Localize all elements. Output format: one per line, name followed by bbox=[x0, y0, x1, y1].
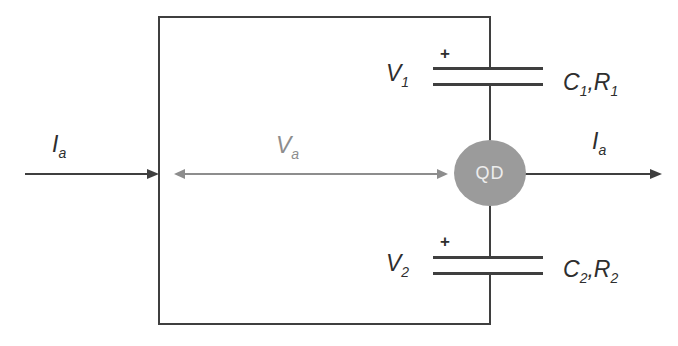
plus-sign-top: + bbox=[440, 45, 450, 62]
label-v1-base: V bbox=[386, 60, 401, 86]
wire-cap1-lower bbox=[489, 85, 491, 142]
label-v1: V1 bbox=[386, 62, 409, 85]
input-current-line bbox=[25, 173, 150, 175]
label-v2: V2 bbox=[386, 252, 409, 275]
label-c2r2: C2,R2 bbox=[563, 258, 618, 281]
label-v2-base: V bbox=[386, 250, 401, 276]
label-voltage-va: Va bbox=[276, 134, 299, 157]
wire-bottom-edge bbox=[158, 323, 491, 325]
output-arrowhead-icon bbox=[650, 169, 662, 179]
label-v2-sub: 2 bbox=[401, 264, 409, 280]
label-r1-base: R bbox=[594, 69, 611, 95]
input-arrowhead-icon bbox=[147, 169, 159, 179]
capacitor2-plate-top bbox=[433, 256, 543, 259]
label-voltage-va-sub: a bbox=[291, 146, 299, 162]
label-r2-base: R bbox=[594, 256, 611, 282]
capacitor2-plate-bottom bbox=[433, 272, 543, 275]
label-c1-base: C bbox=[563, 69, 580, 95]
label-r1-sub: 1 bbox=[610, 83, 618, 99]
wire-cap2-upper bbox=[489, 203, 491, 258]
label-current-in: Ia bbox=[52, 133, 66, 156]
label-c1r1: C1,R1 bbox=[563, 71, 618, 94]
quantum-dot-label: QD bbox=[476, 163, 505, 184]
label-r2-sub: 2 bbox=[610, 270, 618, 286]
capacitor1-plate-bottom bbox=[433, 83, 543, 86]
wire-top-edge bbox=[158, 16, 491, 18]
label-voltage-va-base: V bbox=[276, 132, 291, 158]
wire-cap2-lower bbox=[489, 273, 491, 325]
label-current-in-sub: a bbox=[58, 145, 66, 161]
va-arrow-line bbox=[182, 173, 440, 175]
output-current-line bbox=[524, 173, 652, 175]
label-current-out: Ia bbox=[592, 130, 606, 153]
plus-sign-bottom: + bbox=[440, 233, 450, 250]
quantum-dot: QD bbox=[454, 140, 526, 206]
circuit-diagram: QD Ia Va Ia V1 + C1,R1 + V2 C2,R2 bbox=[0, 0, 678, 346]
va-arrowhead-left-icon bbox=[174, 169, 185, 179]
label-c2-base: C bbox=[563, 256, 580, 282]
capacitor1-plate-top bbox=[433, 67, 543, 70]
wire-cap1-upper bbox=[489, 16, 491, 68]
va-arrowhead-right-icon bbox=[437, 169, 448, 179]
label-current-out-sub: a bbox=[598, 142, 606, 158]
label-v1-sub: 1 bbox=[401, 74, 409, 90]
